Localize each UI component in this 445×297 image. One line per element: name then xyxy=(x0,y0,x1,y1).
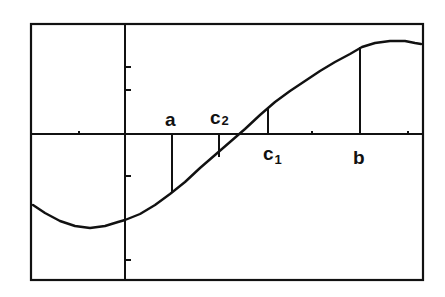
label-c1-base: c xyxy=(263,143,274,164)
marker-lines xyxy=(172,47,360,193)
chart: a c2 c1 b xyxy=(0,0,445,297)
label-b: b xyxy=(353,147,365,168)
label-c2-base: c xyxy=(210,107,221,128)
label-c1: c1 xyxy=(263,143,282,167)
label-c1-subscript: 1 xyxy=(275,152,282,167)
label-c2: c2 xyxy=(210,107,229,128)
label-c2-subscript: 2 xyxy=(222,113,229,128)
label-a: a xyxy=(165,109,176,130)
